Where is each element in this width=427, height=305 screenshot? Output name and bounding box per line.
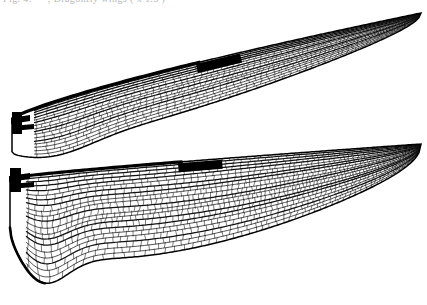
dragonfly-wing-plate [0,0,427,305]
forewing-longitudinal-veins [35,13,422,154]
forewing-group [11,13,421,157]
hindwing-group [9,144,421,283]
hindwing-longitudinal-veins [26,144,421,277]
